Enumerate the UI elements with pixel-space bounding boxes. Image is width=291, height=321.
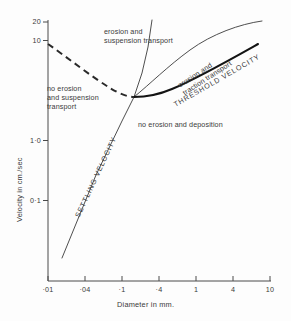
annotation-erosion-suspension-line2: suspension transport	[104, 36, 173, 45]
y-tick-label-10: 10	[22, 36, 41, 45]
y-tick-label-1-0: 1·0	[20, 136, 41, 145]
annotation-no-erosion-line2: and suspension	[47, 93, 99, 102]
annotation-no-erosion-deposition: no erosion and deposition	[138, 120, 223, 129]
x-tick-label-01: ·01	[34, 285, 62, 294]
x-axis-title: Diameter in mm.	[117, 300, 174, 309]
x-tick-label-one: 1	[182, 285, 210, 294]
annotation-erosion-suspension-line1: erosion and	[104, 27, 173, 36]
y-tick-label-20: 20	[22, 17, 41, 26]
x-axis-ticks	[48, 276, 270, 281]
x-tick-label-4: ·4	[145, 285, 173, 294]
annotation-no-erosion-line3: transport	[47, 102, 99, 111]
y-axis-title: Velocity in cm./sec	[15, 157, 24, 222]
x-tick-label-ten: 10	[256, 285, 284, 294]
plot-canvas	[0, 0, 291, 321]
annotation-no-erosion-suspension: no erosion and suspension transport	[47, 84, 99, 112]
x-tick-label-1: ·1	[108, 285, 136, 294]
annotation-no-erosion-line1: no erosion	[47, 84, 99, 93]
annotation-erosion-suspension: erosion and suspension transport	[104, 27, 173, 45]
chart-figure: 20 10 1·0 0·1 ·01 ·04 ·1 ·4 1 4 10 Veloc…	[0, 0, 291, 321]
x-tick-label-four: 4	[219, 285, 247, 294]
x-tick-label-04: ·04	[71, 285, 99, 294]
